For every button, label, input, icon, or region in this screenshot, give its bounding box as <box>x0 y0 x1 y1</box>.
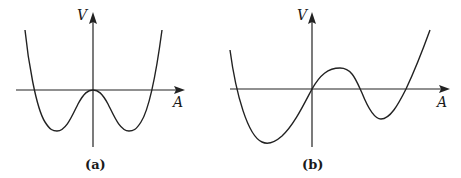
panel-a-x-label: A <box>171 94 183 110</box>
panel-b-y-label: V <box>297 7 309 23</box>
panel-a: V A (a) <box>16 7 185 172</box>
panel-b-potential-curve <box>230 30 430 143</box>
panel-a-caption: (a) <box>85 157 106 172</box>
panel-a-y-label: V <box>77 7 89 23</box>
panel-b-caption: (b) <box>302 157 323 172</box>
panel-b-x-label: A <box>435 94 447 110</box>
panel-b: V A (b) <box>230 7 450 172</box>
potential-figure: V A (a) V A (b) <box>0 0 461 178</box>
